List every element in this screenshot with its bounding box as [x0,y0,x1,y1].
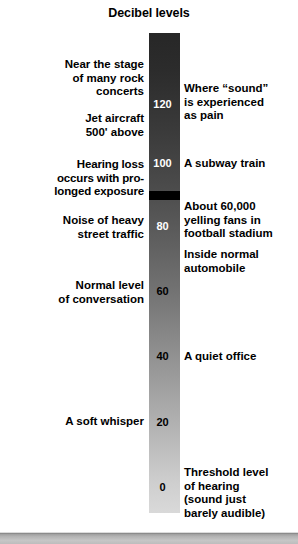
label-inside-automobile: Inside normal automobile [184,248,296,275]
label-quiet-office: A quiet office [184,350,296,364]
tick-label-100: 100 [148,157,177,169]
figure-title: Decibel levels [0,6,298,20]
label-rock-concerts: Near the stage of many rock concerts [9,58,144,99]
tick-label-0: 0 [148,481,177,493]
decibel-levels-figure: Decibel levels 120 100 80 60 40 20 0 Nea… [0,0,298,544]
page-bottom-rule [0,533,298,534]
label-conversation: Normal level of conversation [9,279,144,306]
label-sound-as-pain: Where “sound” is experienced as pain [184,82,296,123]
label-soft-whisper: A soft whisper [9,415,144,429]
tick-label-20: 20 [148,416,177,428]
label-street-traffic: Noise of heavy street traffic [9,214,144,241]
tick-label-120: 120 [148,98,177,110]
label-football-stadium: About 60,000 yelling fans in football st… [184,200,296,241]
tick-label-40: 40 [148,350,177,362]
hearing-loss-threshold-marker [149,191,180,200]
label-subway-train: A subway train [184,157,296,171]
tick-label-80: 80 [148,220,177,232]
label-threshold-of-hearing: Threshold level of hearing (sound just b… [184,466,296,520]
tick-label-60: 60 [148,285,177,297]
label-jet-aircraft: Jet aircraft 500' above [9,112,144,139]
label-hearing-loss: Hearing loss occurs with pro- longed exp… [9,158,144,199]
